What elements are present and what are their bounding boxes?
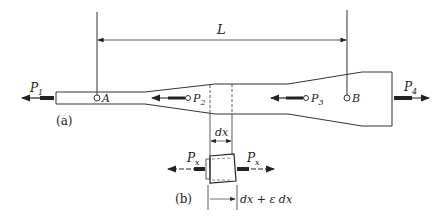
point-a-marker	[94, 95, 100, 101]
force-label-p4: P4	[403, 80, 417, 96]
force-label-px-right: Px	[246, 151, 260, 167]
force-label-px-left: Px	[186, 151, 200, 167]
point-b-marker	[344, 95, 350, 101]
point-a-label: A	[101, 92, 110, 105]
dimension-label-deformed: dx + ε dx	[240, 193, 293, 206]
part-b-label: (b)	[175, 192, 192, 206]
dimension-label-l: L	[216, 22, 226, 37]
part-a-label: (a)	[56, 114, 73, 128]
force-p2-anchor	[186, 96, 191, 101]
force-label-p2: P2	[192, 92, 206, 107]
dimension-label-dx: dx	[215, 126, 229, 139]
point-b-label: B	[351, 92, 360, 105]
bar-diagram: L A B P1 P2 P3 P4 (a) dx Px Px dx + ε dx…	[0, 0, 444, 221]
force-label-p3: P3	[310, 92, 324, 107]
force-p3-anchor	[304, 96, 309, 101]
force-label-p1: P1	[29, 81, 43, 97]
